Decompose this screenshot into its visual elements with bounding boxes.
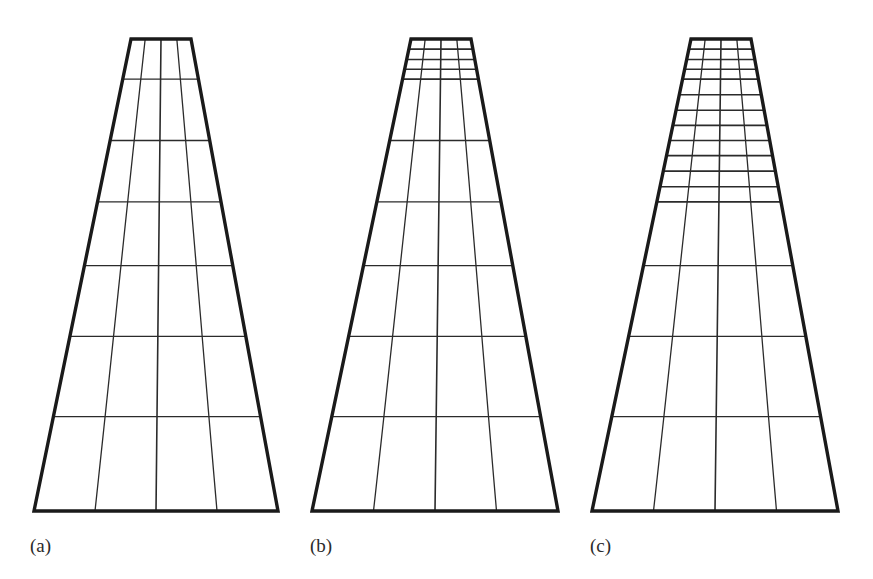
- figure-background: [0, 0, 873, 579]
- figure-root: (a)(b)(c): [0, 0, 873, 579]
- mesh-figure-canvas: (a)(b)(c): [0, 0, 873, 579]
- panel-caption-panel-a: (a): [30, 535, 51, 557]
- panel-caption-panel-b: (b): [310, 535, 332, 557]
- panel-caption-panel-c: (c): [590, 535, 611, 557]
